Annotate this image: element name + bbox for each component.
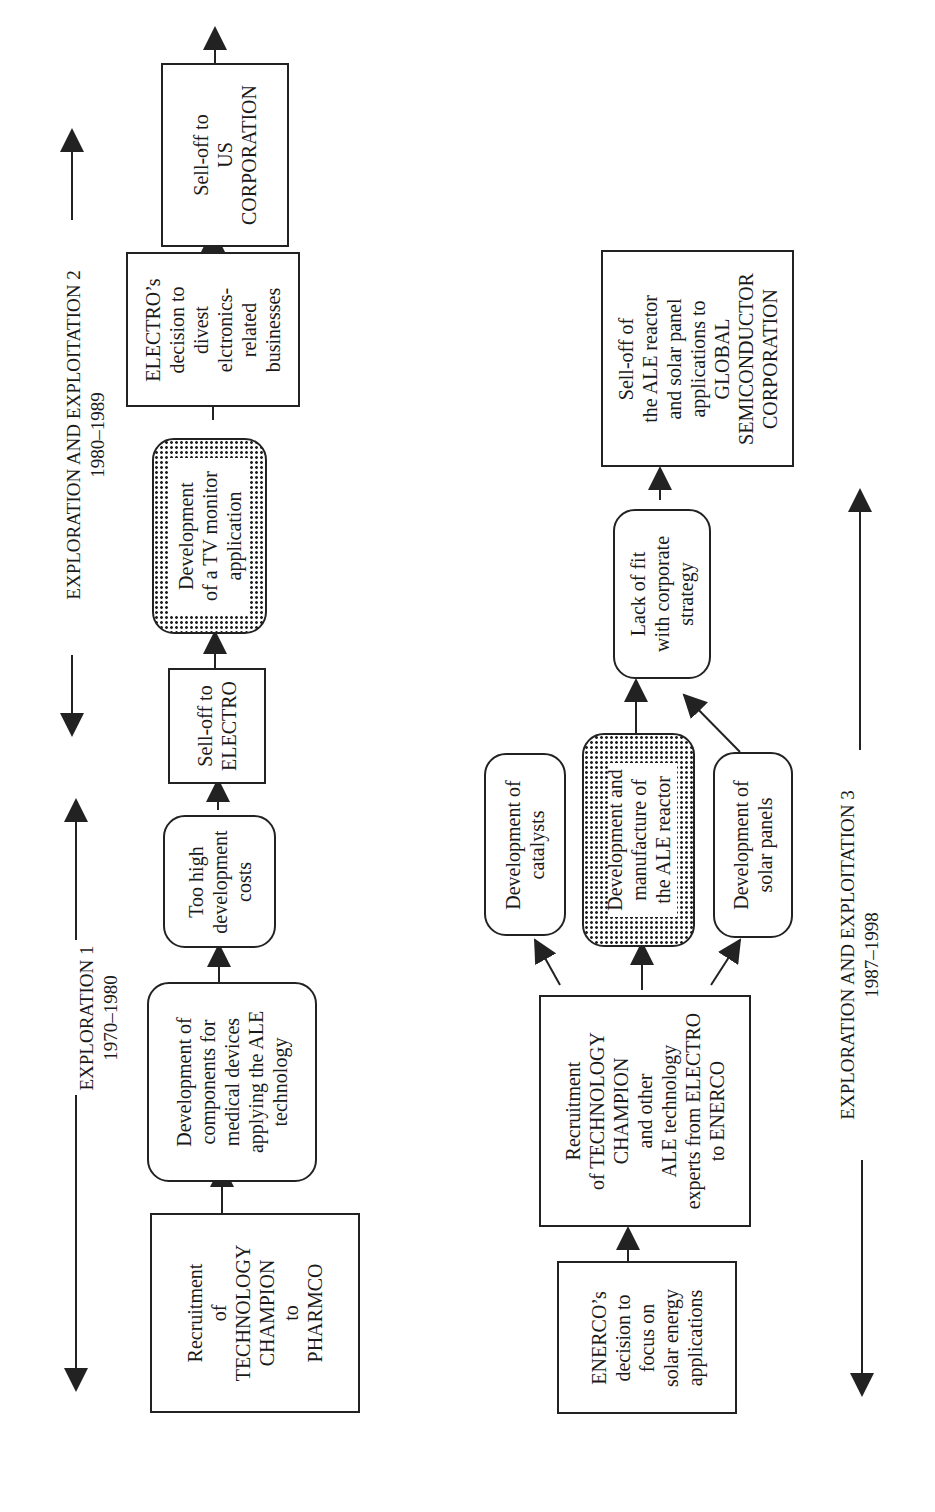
- node-development-catalysts: Development of catalysts: [484, 753, 566, 936]
- phase-name: EXPLORATION AND EXPLOITATION 3: [836, 790, 860, 1119]
- node-text-line: TECHNOLOGY: [231, 1245, 255, 1382]
- node-text-line: GLOBAL: [710, 273, 734, 445]
- node-enerco-decision: ENERCO’s decision to focus on solar ener…: [557, 1261, 737, 1414]
- node-text-line: of TECHNOLOGY: [585, 1013, 609, 1210]
- node-text-line: Development of: [729, 780, 753, 909]
- node-text-line: strategy: [674, 536, 698, 652]
- node-text-line: Lack of fit: [626, 536, 650, 652]
- phase-years: 1970–1980: [99, 945, 123, 1090]
- node-text-line: CORPORATION: [758, 273, 782, 445]
- node-text-line: development: [208, 830, 232, 933]
- phase-label-exploration-1: EXPLORATION 1 1970–1980: [75, 945, 123, 1090]
- node-text-line: of a TV monitor: [198, 471, 222, 601]
- node-text-line: Development of: [172, 1011, 196, 1153]
- node-text-line: decision to: [611, 1289, 635, 1387]
- node-text-line: ENERCO’s: [587, 1289, 611, 1387]
- node-text-line: ELECTRO’s: [141, 278, 165, 381]
- node-text-line: medical devices: [220, 1011, 244, 1153]
- node-development-solar-panels: Development of solar panels: [713, 752, 793, 938]
- node-text-line: CORPORATION: [237, 85, 261, 225]
- node-text-line: CHAMPION: [255, 1245, 279, 1382]
- phase-label-exploration-exploitation-3: EXPLORATION AND EXPLOITATION 3 1987–1998: [836, 790, 884, 1119]
- node-development-ale-reactor: Development and manufacture of the ALE r…: [582, 733, 695, 947]
- phase-years: 1987–1998: [860, 790, 884, 1119]
- node-text-line: Sell-off to: [193, 681, 217, 771]
- phase-name: EXPLORATION 1: [75, 945, 99, 1090]
- node-text-line: divest: [189, 278, 213, 381]
- diagram-connectors: [0, 0, 935, 1512]
- node-text-line: focus on: [635, 1289, 659, 1387]
- node-too-high-costs: Too high development costs: [163, 815, 276, 948]
- node-electro-divest-decision: ELECTRO’s decision to divest elctronics-…: [126, 252, 300, 407]
- node-text-line: ELECTRO: [217, 681, 241, 771]
- node-text-line: Development of: [501, 780, 525, 909]
- node-text-line: and solar panel: [662, 273, 686, 445]
- node-development-medical-components: Development of components for medical de…: [147, 982, 317, 1182]
- node-text-line: to: [279, 1245, 303, 1382]
- node-text-line: Too high: [184, 830, 208, 933]
- node-development-tv-monitor: Development of a TV monitor application: [152, 438, 267, 634]
- node-text-line: US: [213, 85, 237, 225]
- node-recruitment-pharmco: Recruitment of TECHNOLOGY CHAMPION to PH…: [150, 1213, 360, 1413]
- node-text-line: application: [222, 471, 246, 601]
- node-text-line: applications to: [686, 273, 710, 445]
- node-text-line: solar energy: [659, 1289, 683, 1387]
- node-recruitment-enerco: Recruitment of TECHNOLOGY CHAMPION and o…: [539, 995, 751, 1227]
- node-lack-of-fit: Lack of fit with corporate strategy: [613, 509, 711, 679]
- node-text-line: SEMICONDUCTOR: [734, 273, 758, 445]
- node-text-line: Development: [174, 471, 198, 601]
- node-text-line: decision to: [165, 278, 189, 381]
- node-text-line: technology: [268, 1011, 292, 1153]
- node-text-line: Sell-off to: [189, 85, 213, 225]
- node-text-line: Recruitment: [561, 1013, 585, 1210]
- node-text-line: the ALE reactor: [638, 273, 662, 445]
- node-text-line: experts from ELECTRO: [681, 1013, 705, 1210]
- node-text-line: to ENERCO: [705, 1013, 729, 1210]
- node-text-line: ALE technology: [657, 1013, 681, 1210]
- phase-label-exploration-exploitation-2: EXPLORATION AND EXPLOITATION 2 1980–1989: [62, 270, 110, 599]
- node-text-line: Sell-off of: [614, 273, 638, 445]
- phase-name: EXPLORATION AND EXPLOITATION 2: [62, 270, 86, 599]
- node-text-line: manufacture of: [627, 769, 651, 911]
- node-text-line: solar panels: [753, 780, 777, 909]
- node-text-line: of: [207, 1245, 231, 1382]
- node-text-line: applications: [683, 1289, 707, 1387]
- node-text-line: costs: [232, 830, 256, 933]
- node-text-line: businesses: [261, 278, 285, 381]
- node-text-line: applying the ALE: [244, 1011, 268, 1153]
- phase-years: 1980–1989: [86, 270, 110, 599]
- node-text-line: elctronics-: [213, 278, 237, 381]
- node-selloff-global-semiconductor: Sell-off of the ALE reactor and solar pa…: [601, 250, 794, 467]
- node-text-line: components for: [196, 1011, 220, 1153]
- node-text-line: with corporate: [650, 536, 674, 652]
- node-selloff-electro: Sell-off to ELECTRO: [168, 668, 266, 784]
- node-text-line: catalysts: [525, 780, 549, 909]
- node-text-line: CHAMPION: [609, 1013, 633, 1210]
- node-text-line: and other: [633, 1013, 657, 1210]
- node-text-line: PHARMCO: [303, 1245, 327, 1382]
- node-text-line: Recruitment: [183, 1245, 207, 1382]
- node-text-line: related: [237, 278, 261, 381]
- node-selloff-us-corporation: Sell-off to US CORPORATION: [161, 63, 289, 247]
- node-text-line: the ALE reactor: [651, 769, 675, 911]
- node-text-line: Development and: [603, 769, 627, 911]
